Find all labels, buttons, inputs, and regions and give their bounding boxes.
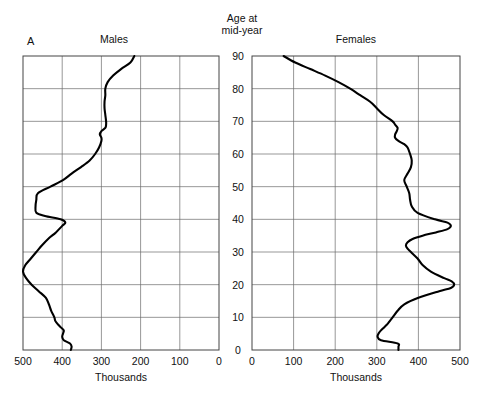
- age-tick-label: 20: [232, 279, 244, 291]
- age-tick-label: 40: [232, 213, 244, 225]
- plot-frame: [252, 56, 460, 350]
- population-curve-females: [284, 56, 455, 350]
- age-tick-label: 80: [232, 83, 244, 95]
- x-tick-label: 300: [93, 355, 111, 367]
- x-tick-label: 300: [368, 355, 386, 367]
- plot-frame: [23, 56, 219, 350]
- males-x-axis-caption: Thousands: [23, 371, 219, 383]
- x-tick-label: 100: [171, 355, 189, 367]
- age-tick-label: 10: [232, 311, 244, 323]
- x-tick-label: 400: [53, 355, 71, 367]
- x-tick-label: 200: [326, 355, 344, 367]
- x-tick-label: 100: [285, 355, 303, 367]
- age-tick-label: 50: [232, 181, 244, 193]
- age-tick-label: 30: [232, 246, 244, 258]
- age-tick-label: 0: [235, 344, 241, 356]
- females-x-axis-caption: Thousands: [252, 371, 460, 383]
- x-tick-label: 500: [14, 355, 32, 367]
- population-pyramid-figure: A Males Females Age at mid-year 50040030…: [0, 0, 485, 401]
- age-tick-label: 70: [232, 115, 244, 127]
- x-tick-label: 400: [410, 355, 428, 367]
- age-tick-label: 60: [232, 148, 244, 160]
- x-tick-label: 500: [451, 355, 469, 367]
- x-tick-label: 0: [249, 355, 255, 367]
- age-tick-label: 90: [232, 50, 244, 62]
- x-tick-label: 0: [216, 355, 222, 367]
- population-curve-males: [23, 56, 134, 350]
- x-tick-label: 200: [132, 355, 150, 367]
